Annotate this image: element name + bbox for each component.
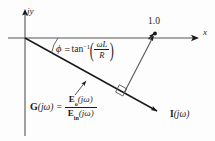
transfer-function-fraction: Eo(jω) Ein(jω) — [65, 95, 97, 120]
e-out-subscript: o — [75, 101, 78, 107]
horizontal-axis-label: x — [203, 28, 207, 37]
phasor-diagram-figure: jy x 1.0 ϕ = tan −1 ( ωL R ) G (jω) = Eo… — [0, 0, 215, 141]
g-argument: (jω) — [38, 103, 54, 113]
e-in-symbol: E — [68, 108, 74, 118]
i-phasor-segment — [124, 36, 154, 93]
fraction-denominator: R — [97, 50, 106, 59]
g-label-leader — [75, 81, 86, 95]
omega-l-over-r-fraction: ωL R — [94, 40, 109, 59]
phi-symbol: ϕ — [56, 44, 61, 55]
current-argument: (jω) — [174, 109, 190, 119]
transfer-numerator: Eo(jω) — [66, 95, 96, 107]
transfer-denominator: Ein(jω) — [65, 108, 97, 120]
vertical-axis — [22, 9, 28, 136]
current-phasor-label: I(jω) — [170, 110, 189, 120]
phi-equals: = — [64, 45, 70, 55]
e-in-subscript: in — [74, 115, 79, 121]
unit-point-label: 1.0 — [148, 17, 160, 27]
g-equals: = — [56, 103, 61, 113]
e-out-symbol: E — [69, 94, 75, 104]
vertical-axis-label: jy — [27, 7, 34, 16]
close-paren: ) — [110, 41, 114, 58]
e-in-argument: (jω) — [79, 108, 94, 118]
g-symbol: G — [30, 102, 38, 112]
diagram-canvas — [0, 0, 215, 141]
fraction-numerator: ωL — [94, 40, 109, 49]
e-out-argument: (jω) — [78, 94, 93, 104]
transfer-function-equation: G (jω) = Eo(jω) Ein(jω) — [30, 95, 97, 120]
phase-angle-equation: ϕ = tan −1 ( ωL R ) — [56, 40, 114, 59]
open-paren: ( — [90, 41, 94, 58]
tan-function: tan — [72, 45, 84, 55]
